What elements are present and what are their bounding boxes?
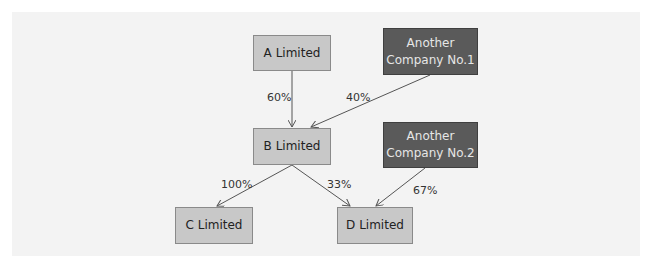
node-another-company-2: Another Company No.2 xyxy=(383,122,478,168)
node-b-limited: B Limited xyxy=(253,128,331,165)
edge-label-40: 40% xyxy=(346,91,370,104)
node-label-line1: Another xyxy=(407,35,455,52)
node-label-line1: Another xyxy=(407,128,455,145)
node-c-limited: C Limited xyxy=(175,207,253,244)
edge-label-60: 60% xyxy=(267,91,291,104)
node-label: B Limited xyxy=(264,138,321,155)
edge-label-100: 100% xyxy=(221,178,252,191)
node-label: A Limited xyxy=(264,45,321,62)
node-another-company-1: Another Company No.1 xyxy=(383,28,478,75)
node-a-limited: A Limited xyxy=(253,35,331,71)
node-d-limited: D Limited xyxy=(337,207,413,244)
node-label-line2: Company No.1 xyxy=(386,52,474,69)
node-label: D Limited xyxy=(346,217,404,234)
edge-label-33: 33% xyxy=(327,178,351,191)
node-label-line2: Company No.2 xyxy=(386,145,474,162)
node-label: C Limited xyxy=(186,217,243,234)
edge-label-67: 67% xyxy=(413,184,437,197)
edge-another1-to-b xyxy=(311,75,430,127)
